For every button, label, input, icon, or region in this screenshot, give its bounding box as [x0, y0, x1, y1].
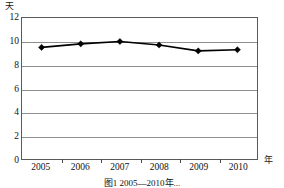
- y-tick-label: 0: [14, 156, 19, 166]
- x-tick-mark: [62, 159, 63, 163]
- x-tick-mark: [141, 159, 142, 163]
- x-axis-unit-label: 年: [264, 156, 273, 165]
- series-line-chart: [22, 18, 257, 159]
- figure-container: 天 年 024681012 200520062007200820092010 图…: [0, 0, 284, 188]
- y-tick-label: 4: [14, 109, 19, 119]
- data-point-marker: [195, 48, 201, 54]
- series-polyline: [42, 41, 238, 50]
- x-tick-label: 2009: [189, 162, 208, 172]
- figure-caption: 图1 2005—2010年...: [0, 178, 284, 188]
- x-tick-label: 2006: [71, 162, 90, 172]
- x-tick-label: 2008: [150, 162, 169, 172]
- x-tick-mark: [101, 159, 102, 163]
- y-tick-label: 12: [10, 13, 20, 23]
- data-point-marker: [39, 44, 45, 50]
- x-tick-label: 2007: [110, 162, 129, 172]
- plot-area: 024681012: [21, 17, 258, 160]
- x-tick-mark: [180, 159, 181, 163]
- y-tick-label: 2: [14, 132, 19, 142]
- data-point-marker: [117, 38, 123, 44]
- y-tick-label: 10: [10, 37, 20, 47]
- y-tick-label: 6: [14, 85, 19, 95]
- data-point-marker: [156, 42, 162, 48]
- y-tick-label: 8: [14, 61, 19, 71]
- series-marker-group: [39, 38, 241, 54]
- x-tick-mark: [220, 159, 221, 163]
- y-axis-unit-label: 天: [5, 2, 14, 11]
- data-point-marker: [234, 47, 240, 53]
- x-tick-label: 2005: [31, 162, 50, 172]
- x-tick-label: 2010: [229, 162, 248, 172]
- gridline: 0: [22, 161, 257, 162]
- data-point-marker: [78, 41, 84, 47]
